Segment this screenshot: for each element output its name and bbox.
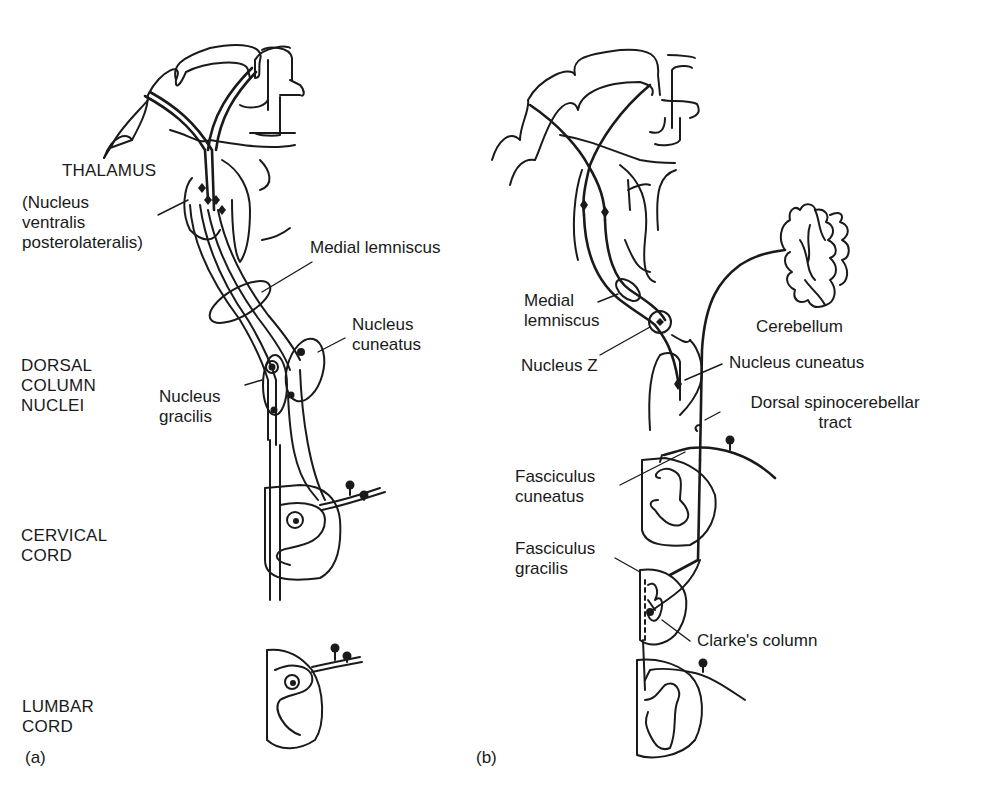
label-nucleus-cuneatus-b: Nucleus cuneatus bbox=[729, 353, 864, 373]
panel-a-drawing bbox=[104, 45, 385, 748]
label-lumbar-cord: LUMBAR CORD bbox=[22, 697, 94, 737]
label-nucleus-cuneatus-a: Nucleus cuneatus bbox=[352, 315, 421, 355]
label-medial-lemniscus-a: Medial lemniscus bbox=[310, 238, 440, 258]
label-medial-lemniscus-b: Medial lemniscus bbox=[524, 291, 600, 331]
lumbar-cord-outline-b bbox=[637, 660, 702, 758]
panel-tag-b: (b) bbox=[476, 748, 497, 768]
label-cerebellum: Cerebellum bbox=[756, 317, 843, 337]
label-cervical-cord: CERVICAL CORD bbox=[21, 526, 107, 566]
sulcus-a bbox=[240, 48, 304, 136]
label-clarkes-column: Clarke's column bbox=[697, 631, 817, 651]
label-nucleus-z: Nucleus Z bbox=[521, 356, 598, 376]
label-fasciculus-cuneatus: Fasciculus cuneatus bbox=[515, 467, 595, 507]
cortex-lower-a bbox=[104, 100, 148, 158]
label-dorsal-column-nuclei: DORSAL COLUMN NUCLEI bbox=[21, 356, 96, 416]
label-dorsal-spinocerebellar-tract: Dorsal spinocerebellar tract bbox=[728, 393, 942, 433]
panel-tag-a: (a) bbox=[25, 748, 46, 768]
cervical-cord-outline bbox=[265, 485, 340, 580]
label-nucleus-ventralis-posterolateralis: (Nucleus ventralis posterolateralis) bbox=[22, 193, 143, 253]
label-fasciculus-gracilis: Fasciculus gracilis bbox=[515, 539, 595, 579]
label-nucleus-gracilis-a: Nucleus gracilis bbox=[159, 387, 220, 427]
label-thalamus: THALAMUS bbox=[62, 161, 156, 181]
